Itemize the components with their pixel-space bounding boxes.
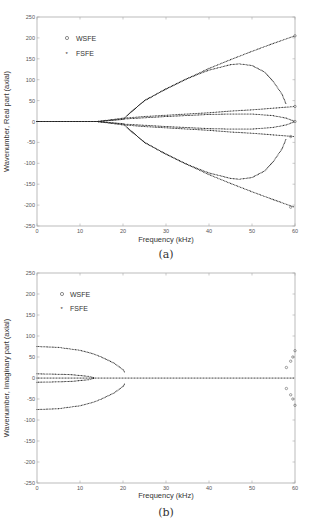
fsfe-point [279,377,280,378]
fsfe-point [159,150,160,151]
fsfe-point [38,382,39,383]
fsfe-point [205,128,206,129]
fsfe-point [156,377,157,378]
fsfe-point [282,202,283,203]
fsfe-point [216,130,217,131]
y-tick-label: 100 [26,333,35,339]
fsfe-point [249,65,250,66]
fsfe-point [133,125,134,126]
fsfe-point [149,125,150,126]
fsfe-point [47,381,48,382]
fsfe-point [71,377,72,378]
fsfe-point [40,346,41,347]
fsfe-point [213,377,214,378]
fsfe-point [41,409,42,410]
fsfe-point [175,128,176,129]
fsfe-point [42,121,43,122]
fsfe-point [224,131,225,132]
fsfe-point [159,127,160,128]
fsfe-point [212,128,213,129]
fsfe-point [165,116,166,117]
fsfe-point [264,170,265,171]
fsfe-point [137,124,138,125]
fsfe-point [145,143,146,144]
fsfe-point [233,178,234,179]
fsfe-point [259,109,260,110]
fsfe-point [276,377,277,378]
fsfe-point [62,381,63,382]
x-tick-label: 0 [35,485,38,491]
fsfe-point [229,177,230,178]
fsfe-point [279,116,280,117]
fsfe-point [279,107,280,108]
fsfe-point [163,152,164,153]
fsfe-point [169,86,170,87]
fsfe-point [201,128,202,129]
fsfe-point [284,117,285,118]
fsfe-point [58,121,59,122]
fsfe-point [171,116,172,117]
fsfe-point [141,139,142,140]
fsfe-point [83,121,84,122]
fsfe-point [186,115,187,116]
fsfe-point [44,121,45,122]
fsfe-point [256,133,257,134]
fsfe-point [246,64,247,65]
fsfe-point [50,121,51,122]
fsfe-point [254,377,255,378]
fsfe-point [70,121,71,122]
fsfe-point [195,127,196,128]
fsfe-point [91,353,92,354]
fsfe-point [250,128,251,129]
fsfe-point [240,187,241,188]
fsfe-point [192,115,193,116]
fsfe-point [63,407,64,408]
fsfe-point [156,148,157,149]
fsfe-point [212,377,213,378]
fsfe-point [225,377,226,378]
fsfe-point [230,131,231,132]
fsfe-point [201,129,202,130]
fsfe-point [255,175,256,176]
fsfe-point [68,381,69,382]
fsfe-point [270,134,271,135]
fsfe-point [59,381,60,382]
x-tick-label: 40 [206,485,212,491]
fsfe-point [242,113,243,114]
fsfe-point [50,408,51,409]
fsfe-point [173,126,174,127]
fsfe-point [44,382,45,383]
fsfe-point [133,124,134,125]
fsfe-point [151,117,152,118]
fsfe-point [205,114,206,115]
fsfe-point [239,377,240,378]
fsfe-point [204,112,205,113]
fsfe-point [184,79,185,80]
fsfe-point [239,113,240,114]
fsfe-point [240,377,241,378]
fsfe-point [189,127,190,128]
fsfe-point [80,121,81,122]
fsfe-point [221,128,222,129]
fsfe-point [216,114,217,115]
fsfe-point [269,377,270,378]
fsfe-point [212,114,213,115]
fsfe-point [134,118,135,119]
fsfe-point [236,132,237,133]
fsfe-point [162,116,163,117]
y-tick-label: 100 [26,77,35,83]
fsfe-point [86,377,87,378]
fsfe-point [152,96,153,97]
fsfe-point [57,377,58,378]
fsfe-point [226,65,227,66]
fsfe-point [265,115,266,116]
fsfe-point [142,117,143,118]
fsfe-point [137,136,138,137]
fsfe-point [204,128,205,129]
fsfe-point [59,377,60,378]
fsfe-point [120,124,121,125]
fsfe-point [238,113,239,114]
fsfe-point [196,75,197,76]
fsfe-point [52,347,53,348]
fsfe-point [116,365,117,366]
